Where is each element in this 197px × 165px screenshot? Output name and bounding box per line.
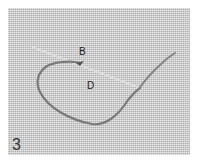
stitched-line <box>138 53 175 90</box>
label-b: B <box>79 47 86 57</box>
stitch-illustration <box>0 0 197 165</box>
label-d: D <box>87 81 94 91</box>
step-number: 3 <box>12 137 21 153</box>
thread-loop <box>38 62 140 125</box>
embroidery-step-photo: B D 3 <box>0 0 197 165</box>
